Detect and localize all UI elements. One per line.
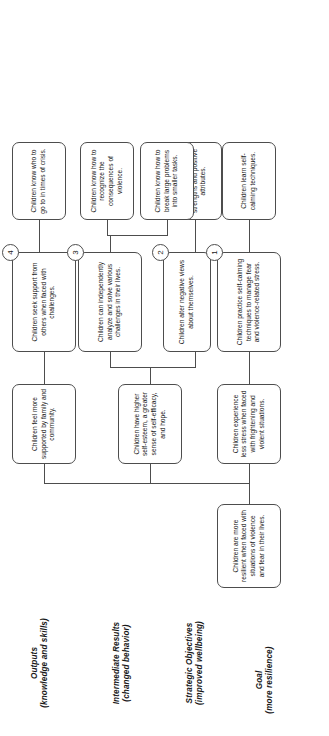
badge-ir4-number: 4 <box>6 250 15 254</box>
badge-ir1-number: 1 <box>210 250 219 254</box>
row-label-outputs: Outputs (knowledge and skills) <box>30 598 50 728</box>
connector-spine-to-ir2 <box>195 352 196 368</box>
connector-ir3-to-spine <box>110 236 111 252</box>
node-op3-text: Children know how to break large problem… <box>154 147 180 215</box>
node-ir3[interactable]: Children can independently analyze and s… <box>78 252 142 352</box>
node-op5[interactable]: Children know who to go to in times of c… <box>12 142 66 220</box>
row-label-intermediate: Intermediate Results (changed behavior) <box>112 598 132 728</box>
connector-ir4-to-op5 <box>39 220 40 252</box>
connector-op-spine-34 <box>107 235 167 236</box>
node-so2[interactable]: Children have higher self-esteem, a grea… <box>118 384 182 464</box>
node-op1-text: Children learn self-calming techniques. <box>240 147 257 215</box>
node-ir4[interactable]: Children seek support from others when f… <box>12 252 76 352</box>
node-so2-text: Children have higher self-esteem, a grea… <box>133 389 167 459</box>
badge-ir2-number: 2 <box>156 250 165 254</box>
row-label-goal: Goal (more resilience) <box>255 632 275 728</box>
node-op3[interactable]: Children know how to break large problem… <box>140 142 194 220</box>
node-ir1-text: Children practice self-calming technique… <box>236 257 262 347</box>
node-so1[interactable]: Children experience less stress when fac… <box>217 384 281 464</box>
connector-spine-to-op4 <box>107 220 108 236</box>
connector-spine-to-so3 <box>44 464 45 484</box>
connector-so3-to-ir4 <box>44 352 45 384</box>
row-label-strategic: Strategic Objectives (improved wellbeing… <box>185 598 205 728</box>
row-label-goal-title: Goal <box>255 671 264 690</box>
connector-spine-to-ir3 <box>110 352 111 368</box>
connector-spine-to-so1 <box>249 464 250 484</box>
connector-so2-to-spine <box>150 368 151 384</box>
connector-so1-to-ir1 <box>249 352 250 384</box>
node-ir2[interactable]: Children alter negative views about them… <box>163 252 211 352</box>
row-label-goal-subtitle: (more resilience) <box>265 632 275 728</box>
connector-spine-to-so2 <box>150 464 151 484</box>
connector-ir2-to-op2 <box>195 220 196 252</box>
node-goal-text: Children are more resilient when faced w… <box>232 509 266 583</box>
connector-strategic-spine <box>44 483 250 484</box>
badge-ir3: 3 <box>67 244 84 261</box>
node-op1[interactable]: Children learn self-calming techniques. <box>222 142 276 220</box>
node-goal[interactable]: Children are more resilient when faced w… <box>217 504 281 588</box>
row-label-intermediate-title: Intermediate Results <box>112 622 121 705</box>
node-ir4-text: Children seek support from others when f… <box>31 257 57 347</box>
node-so3[interactable]: Children feel more supported by family a… <box>12 384 76 464</box>
badge-ir3-number: 3 <box>71 250 80 254</box>
node-op4-text: Children know how to recognize the conse… <box>90 147 124 215</box>
node-so3-text: Children feel more supported by family a… <box>31 389 57 459</box>
connector-ir-spine-23 <box>110 367 195 368</box>
node-op5-text: Children know who to go to in times of c… <box>30 147 47 215</box>
row-label-strategic-subtitle: (improved wellbeing) <box>195 598 205 728</box>
row-label-outputs-title: Outputs <box>30 647 39 679</box>
diagram-canvas: Goal (more resilience) Strategic Objecti… <box>0 0 329 736</box>
node-ir1[interactable]: Children practice self-calming technique… <box>217 252 281 352</box>
node-ir3-text: Children can independently analyze and s… <box>97 257 123 347</box>
connector-spine-to-op3 <box>167 220 168 236</box>
connector-ir1-to-op1 <box>249 220 250 252</box>
badge-ir2: 2 <box>152 244 169 261</box>
badge-ir4: 4 <box>2 244 19 261</box>
row-label-intermediate-subtitle: (changed behavior) <box>122 598 132 728</box>
node-op4[interactable]: Children know how to recognize the conse… <box>80 142 134 220</box>
badge-ir1: 1 <box>206 244 223 261</box>
node-ir2-text: Children alter negative views about them… <box>178 257 195 347</box>
connector-goal-to-spine <box>249 484 250 504</box>
row-label-outputs-subtitle: (knowledge and skills) <box>40 598 50 728</box>
node-so1-text: Children experience less stress when fac… <box>232 389 266 459</box>
row-label-strategic-title: Strategic Objectives <box>185 623 194 704</box>
